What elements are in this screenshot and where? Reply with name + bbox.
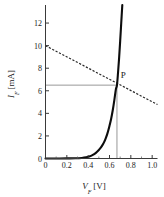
y-tick-label: 10 (34, 42, 42, 51)
x-tick-label: 0.2 (62, 161, 72, 170)
x-tick-label: 1.0 (147, 161, 157, 170)
axis-unit: [mA] (6, 70, 16, 91)
axis-unit: [V] (91, 181, 105, 191)
y-tick-label: 0 (38, 155, 42, 164)
diode-curve-group (46, 5, 123, 159)
axes-group (46, 5, 158, 159)
annotations-group: P (121, 70, 126, 80)
y-tick-label: 12 (34, 19, 42, 28)
y-axis-title: IF [mA] (6, 70, 20, 99)
x-tick-label: 0.8 (126, 161, 136, 170)
diode-forward-characteristic-curve (46, 5, 123, 159)
y-tick-label: 2 (38, 132, 42, 141)
guide-lines-group (46, 85, 117, 158)
x-axis-tick-labels: 00.20.40.60.81.0 (44, 161, 158, 170)
operating-point-label: P (121, 70, 126, 80)
x-tick-label: 0 (44, 161, 48, 170)
y-tick-label: 4 (38, 109, 42, 118)
x-tick-label: 0.6 (105, 161, 115, 170)
x-axis-title: VF [V] (82, 181, 105, 195)
load-line-group (46, 46, 158, 105)
load-line (46, 46, 158, 105)
diode-load-line-figure: 00.20.40.60.81.0 024681012 P VF [V] IF [… (0, 0, 164, 197)
y-tick-label: 8 (38, 64, 42, 73)
y-tick-label: 6 (38, 87, 42, 96)
y-axis-ticks-group (46, 23, 50, 136)
chart-canvas: 00.20.40.60.81.0 024681012 P VF [V] IF [… (0, 0, 164, 197)
y-axis-tick-labels: 024681012 (34, 19, 42, 163)
x-tick-label: 0.4 (83, 161, 93, 170)
